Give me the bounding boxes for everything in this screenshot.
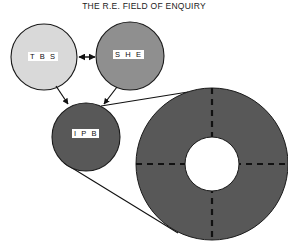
diagram-canvas: [0, 0, 288, 249]
node-ipb-label: I P B: [72, 129, 99, 138]
she-ipb-link: [104, 87, 117, 104]
field-annulus: [136, 88, 288, 240]
tbs-ipb-link: [56, 86, 68, 104]
annulus-inner-hole: [185, 137, 239, 191]
diagram-figure: THE R.E. FIELD OF ENQUIRY: [0, 0, 288, 249]
node-tbs-label: T B S: [28, 52, 58, 61]
node-she-label: S H E: [113, 50, 144, 59]
